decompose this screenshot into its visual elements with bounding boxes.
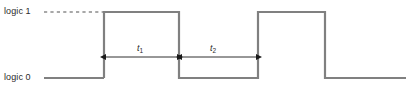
t2-label-subscript: 2 (213, 47, 217, 54)
digital-signal-waveform (104, 12, 406, 78)
waveform-canvas (0, 0, 406, 98)
t1-label: t1 (137, 43, 143, 53)
t1-label-subscript: 1 (140, 47, 144, 54)
timing-diagram-figure: logic 1 logic 0 t1 t2 (0, 0, 406, 98)
t2-label: t2 (210, 43, 216, 53)
logic-0-label: logic 0 (4, 72, 31, 82)
logic-1-label: logic 1 (4, 6, 31, 16)
